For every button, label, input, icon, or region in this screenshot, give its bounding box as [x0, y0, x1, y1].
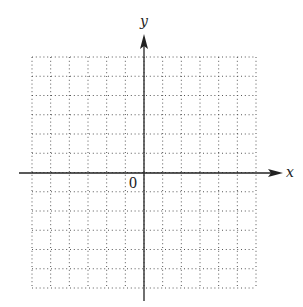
- x-axis-label: x: [286, 164, 294, 180]
- origin-label: 0: [129, 174, 137, 191]
- coordinate-plane: x y 0: [0, 0, 303, 307]
- y-axis-label: y: [139, 13, 149, 29]
